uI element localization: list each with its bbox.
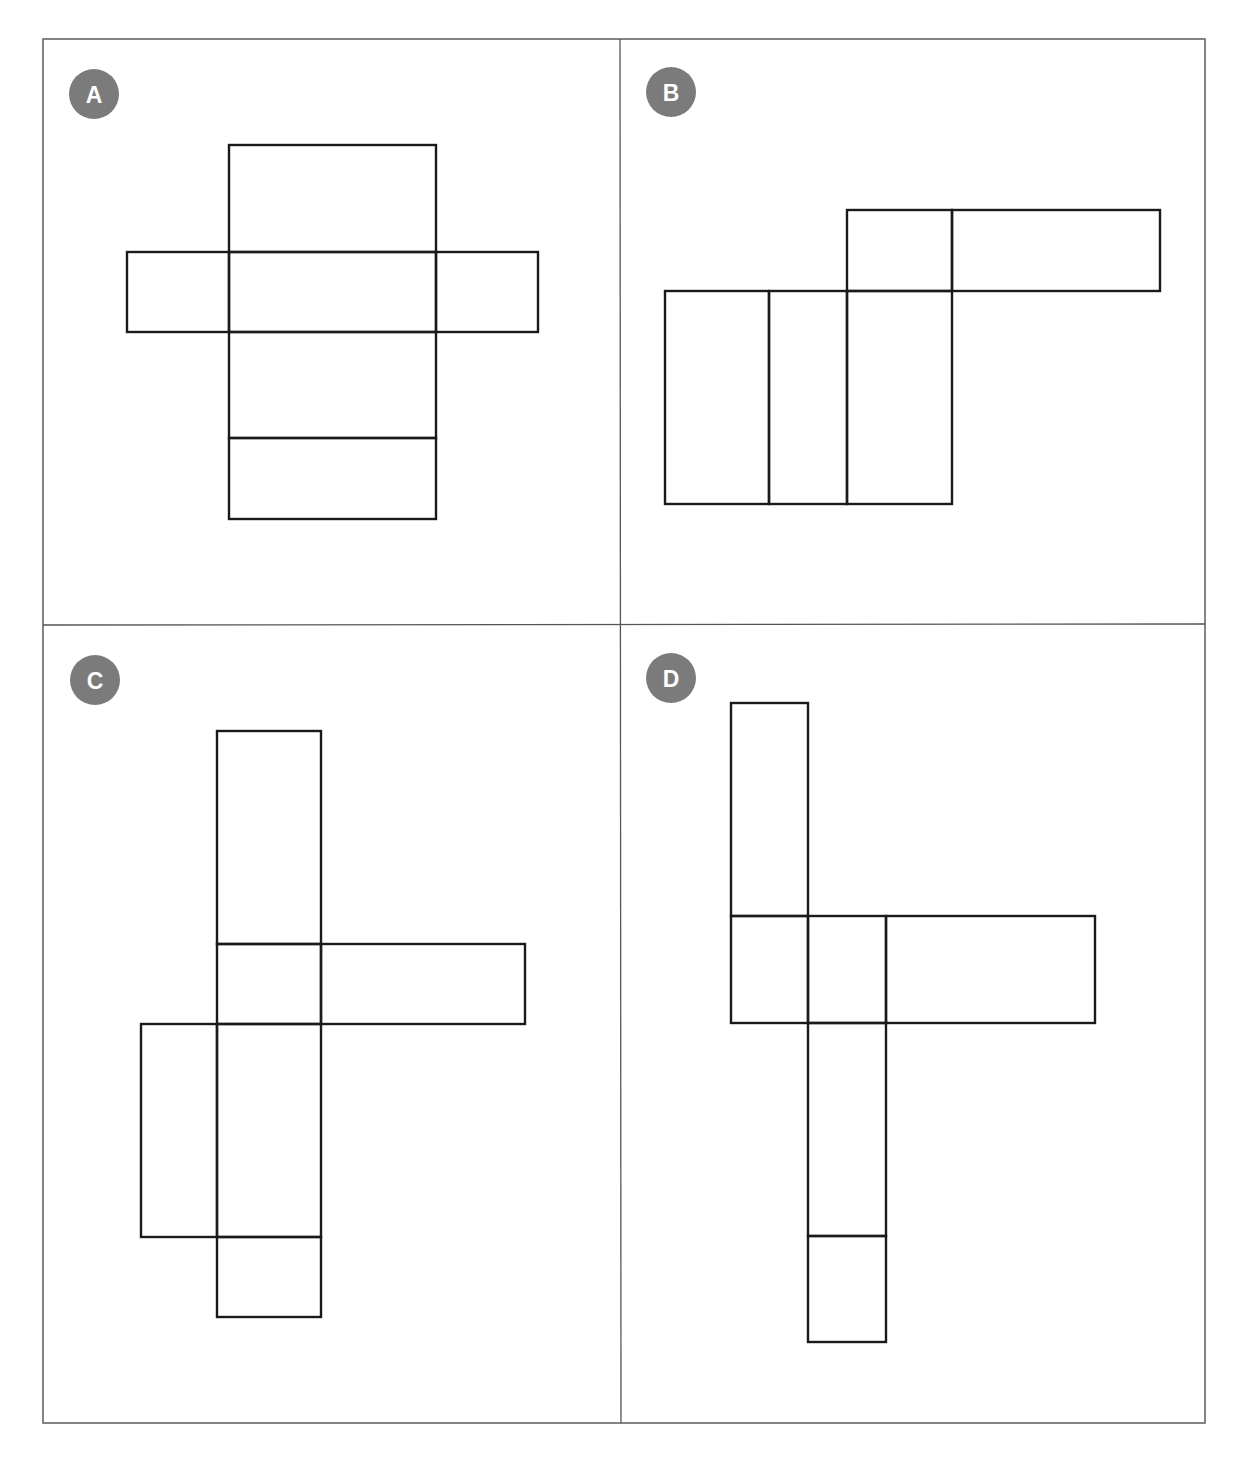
- net-b: [665, 210, 1160, 504]
- panel-d[interactable]: D: [646, 653, 1095, 1342]
- net-c-face: [141, 1024, 217, 1237]
- net-c-face: [217, 1237, 321, 1317]
- net-a-face: [127, 252, 229, 332]
- net-b-face: [952, 210, 1160, 291]
- label-b-text: B: [663, 80, 680, 106]
- net-d-face: [808, 1236, 886, 1342]
- net-d-face: [808, 916, 886, 1023]
- net-c: [141, 731, 525, 1317]
- net-c-face: [217, 944, 321, 1024]
- horizontal-divider: [43, 624, 1205, 625]
- net-c-face: [321, 944, 525, 1024]
- net-d-face: [886, 916, 1095, 1023]
- net-d-face: [731, 916, 808, 1023]
- net-b-face: [769, 291, 847, 504]
- net-c-face: [217, 731, 321, 944]
- net-a-face: [229, 252, 436, 332]
- label-a-text: A: [86, 82, 103, 108]
- net-b-face: [665, 291, 769, 504]
- net-b-face: [847, 210, 952, 291]
- panel-c[interactable]: C: [70, 655, 525, 1317]
- panel-a[interactable]: A: [69, 69, 538, 519]
- label-badge-b: B: [646, 67, 696, 117]
- panel-b[interactable]: B: [646, 67, 1160, 504]
- net-d-face: [731, 703, 808, 916]
- net-a-face: [229, 438, 436, 519]
- label-c-text: C: [87, 668, 104, 694]
- label-badge-a: A: [69, 69, 119, 119]
- label-badge-d: D: [646, 653, 696, 703]
- net-b-face: [847, 291, 952, 504]
- net-a-face: [436, 252, 538, 332]
- nets-figure: A B C D: [0, 0, 1237, 1459]
- vertical-divider: [620, 39, 621, 1423]
- label-badge-c: C: [70, 655, 120, 705]
- label-d-text: D: [663, 666, 680, 692]
- net-a: [127, 145, 538, 519]
- net-c-face: [217, 1024, 321, 1237]
- net-a-face: [229, 332, 436, 438]
- net-a-face: [229, 145, 436, 252]
- net-d-face: [808, 1023, 886, 1236]
- net-d: [731, 703, 1095, 1342]
